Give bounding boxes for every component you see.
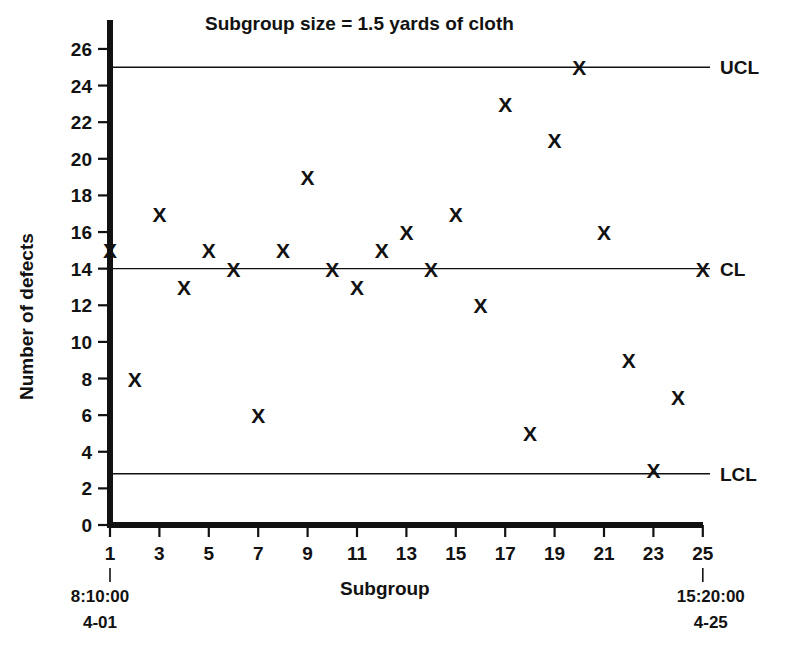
x-tick-label: 13 [396,543,417,564]
data-point: X [325,258,339,281]
x-tick-label: 15 [445,543,467,564]
end-time-time: 15:20:00 [677,587,745,606]
y-tick-label: 24 [71,76,93,97]
y-tick-label: 22 [71,112,92,133]
x-axis-title: Subgroup [340,578,430,599]
y-tick-label: 14 [71,259,93,280]
data-point: X [473,294,487,317]
data-point: X [572,56,586,79]
y-tick-label: 2 [81,478,92,499]
x-tick-label: 5 [204,543,215,564]
x-tick-label: 23 [643,543,664,564]
start-time-date: 4-01 [83,613,117,632]
data-point: X [671,386,685,409]
y-axis-title: Number of defects [16,233,37,400]
y-tick-label: 10 [71,332,92,353]
data-point: X [226,258,240,281]
end-time-date: 4-25 [694,613,728,632]
data-point: X [251,404,265,427]
x-tick-label: 17 [495,543,516,564]
data-point: X [622,349,636,372]
data-point: X [548,129,562,152]
data-point: X [646,459,660,482]
start-time-time: 8:10:00 [71,587,130,606]
data-point: X [696,258,710,281]
control-limit-label-lcl: LCL [720,464,757,485]
x-tick-label: 21 [593,543,615,564]
y-tick-label: 12 [71,295,92,316]
x-tick-label: 25 [692,543,714,564]
data-point: X [523,422,537,445]
y-tick-label: 20 [71,149,92,170]
y-tick-label: 8 [81,369,92,390]
x-tick-label: 9 [302,543,313,564]
x-tick-label: 19 [544,543,565,564]
data-point: X [177,276,191,299]
y-tick-label: 26 [71,39,92,60]
data-point: X [301,166,315,189]
data-point: X [399,221,413,244]
control-limit-labels: UCLCLLCL [720,57,759,484]
control-chart: Subgroup size = 1.5 yards of cloth Numbe… [0,0,786,655]
data-point: X [375,239,389,262]
control-limit-label-ucl: UCL [720,57,759,78]
x-tick-label: 3 [154,543,165,564]
data-point: X [449,203,463,226]
data-point: X [350,276,364,299]
data-point: X [597,221,611,244]
x-tick-label: 7 [253,543,264,564]
y-tick-label: 0 [81,515,92,536]
data-point: X [152,203,166,226]
y-axis-tick-labels: 02468101214161820222426 [71,39,93,536]
y-tick-label: 18 [71,185,92,206]
x-tick-label: 1 [105,543,116,564]
data-point: X [276,239,290,262]
control-limit-label-cl: CL [720,259,746,280]
x-tick-label: 11 [347,543,368,564]
chart-canvas: Subgroup size = 1.5 yards of cloth Numbe… [0,0,786,655]
y-tick-label: 16 [71,222,92,243]
data-point: X [103,239,117,262]
x-axis-tick-labels: 135791113151719212325 [105,543,714,564]
data-point: X [498,93,512,116]
data-point: X [128,368,142,391]
data-point: X [202,239,216,262]
y-tick-label: 4 [81,442,92,463]
control-limit-lines [110,67,710,473]
data-point: X [424,258,438,281]
y-tick-label: 6 [81,405,92,426]
chart-title: Subgroup size = 1.5 yards of cloth [205,13,514,34]
